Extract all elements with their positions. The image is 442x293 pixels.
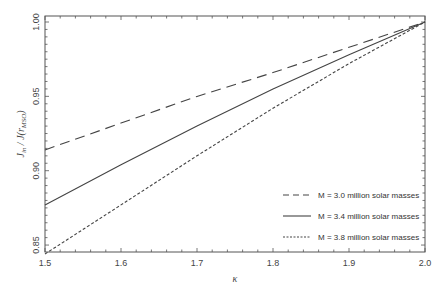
x-tick-label: 1.5	[39, 258, 52, 268]
legend-label-2: M = 3.4 million solar masses	[318, 212, 419, 221]
series-line-2	[45, 22, 425, 205]
x-tick-label: 1.8	[267, 258, 280, 268]
x-tick-label: 2.0	[419, 258, 432, 268]
legend-label-1: M = 3.0 million solar masses	[318, 191, 419, 200]
y-tick-label: 1.00	[31, 13, 41, 31]
x-tick-label: 1.6	[115, 258, 128, 268]
x-axis-label: κ	[233, 273, 238, 284]
y-tick-label: 0.95	[31, 88, 41, 106]
legend-label-3: M = 3.8 million solar masses	[318, 233, 419, 242]
x-tick-label: 1.9	[343, 258, 356, 268]
y-tick-label: 0.90	[31, 162, 41, 180]
series-line-1	[45, 22, 425, 150]
y-tick-label: 0.85	[31, 236, 41, 254]
legend: M = 3.0 million solar masses M = 3.4 mil…	[283, 191, 419, 242]
x-tick-label: 1.7	[191, 258, 204, 268]
line-chart: 1.51.61.71.81.92.0 0.850.900.951.00 κ Ji…	[0, 0, 442, 293]
y-axis-label: Jin / J(rMSO)	[15, 110, 28, 158]
x-axis-ticks: 1.51.61.71.81.92.0	[39, 16, 432, 268]
